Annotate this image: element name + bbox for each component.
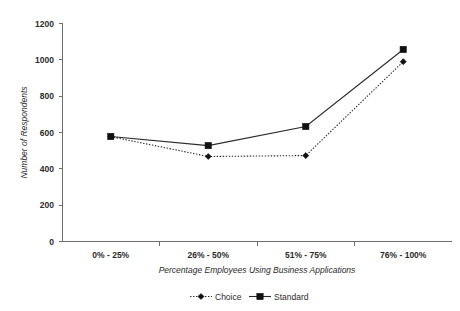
y-tick-label: 400 xyxy=(40,164,54,174)
legend-swatch-choice-marker xyxy=(198,293,204,299)
data-point-choice-3 xyxy=(400,59,406,65)
y-tick-label: 600 xyxy=(40,128,54,138)
y-axis-title: Number of Respondents xyxy=(19,86,29,179)
x-axis-title: Percentage Employees Using Business Appl… xyxy=(159,265,356,275)
series-choice xyxy=(108,59,407,160)
data-point-standard-1 xyxy=(205,142,211,148)
series-layer xyxy=(108,46,407,159)
data-point-choice-2 xyxy=(303,152,309,158)
x-tick-label: 26% - 50% xyxy=(187,250,229,260)
data-point-standard-3 xyxy=(400,46,406,52)
x-axis-category-labels: 0% - 25% 26% - 50% 51% - 75% 76% - 100% xyxy=(92,250,427,260)
x-tick-label: 51% - 75% xyxy=(285,250,327,260)
y-tick-label: 200 xyxy=(40,200,54,210)
x-tick-label: 0% - 25% xyxy=(92,250,129,260)
respondents-line-chart: 1200 1000 800 600 400 200 0 Number of Re… xyxy=(0,0,460,311)
data-point-standard-2 xyxy=(303,123,309,129)
series-line-choice xyxy=(111,62,404,157)
legend-item-choice: Choice xyxy=(190,292,242,302)
chart-legend: Choice Standard xyxy=(190,292,309,302)
x-tick-label: 76% - 100% xyxy=(380,250,427,260)
data-point-choice-1 xyxy=(205,153,211,159)
y-axis-ticks xyxy=(59,24,63,242)
legend-swatch-standard-marker xyxy=(257,293,263,299)
y-axis-tick-labels: 1200 1000 800 600 400 200 0 xyxy=(35,19,54,247)
legend-label-standard: Standard xyxy=(274,292,309,302)
y-tick-label: 800 xyxy=(40,91,54,101)
y-tick-label: 1200 xyxy=(35,19,54,29)
data-point-standard-0 xyxy=(108,133,114,139)
y-tick-label: 1000 xyxy=(35,55,54,65)
x-axis-ticks xyxy=(160,242,355,246)
y-tick-label: 0 xyxy=(49,237,54,247)
series-standard xyxy=(108,46,407,149)
series-line-standard xyxy=(111,49,404,145)
legend-item-standard: Standard xyxy=(249,292,309,302)
chart-container: 1200 1000 800 600 400 200 0 Number of Re… xyxy=(0,0,460,311)
legend-label-choice: Choice xyxy=(215,292,242,302)
